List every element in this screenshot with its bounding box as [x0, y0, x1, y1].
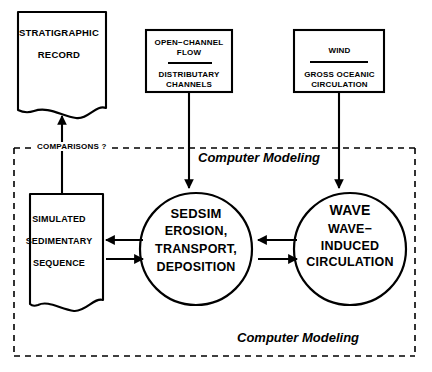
open-channel-box-shape [146, 30, 232, 92]
stratigraphic-record-shape [18, 12, 106, 118]
wind-box-shape [294, 30, 384, 92]
diagram-canvas: STRATIGRAPHIC RECORD OPEN−CHANNEL FLOW D… [0, 0, 432, 372]
diagram-graphics [0, 0, 432, 372]
simulated-sequence-shape [30, 194, 103, 311]
wave-circle-shape [294, 193, 406, 305]
sedsim-circle-shape [140, 193, 252, 305]
